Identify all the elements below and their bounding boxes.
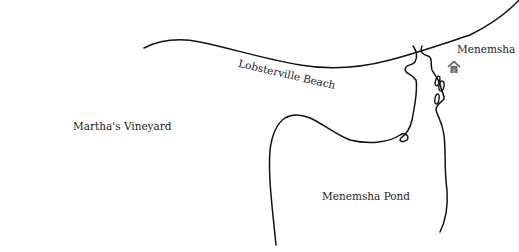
house-icon	[447, 60, 461, 74]
channel-east-shore	[421, 46, 447, 232]
label-marthas-vineyard: Martha's Vineyard	[73, 120, 172, 132]
label-menemsha: Menemsha	[457, 43, 515, 55]
islet-3	[434, 94, 440, 105]
label-menemsha-pond: Menemsha Pond	[322, 190, 410, 202]
north-shoreline	[144, 0, 519, 68]
map: Lobsterville Beach Menemsha Martha's Vin…	[0, 0, 519, 252]
